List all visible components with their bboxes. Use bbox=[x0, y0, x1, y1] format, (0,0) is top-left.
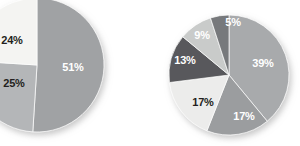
pie-slice-label: 25% bbox=[3, 77, 25, 89]
pie-charts-svg: 51%25%24%39%17%17%13%9%5% bbox=[0, 0, 300, 146]
pie-slice-label: 5% bbox=[225, 16, 241, 28]
pie-charts-figure: 51%25%24%39%17%17%13%9%5% bbox=[0, 0, 300, 146]
chart-canvas: 51%25%24%39%17%17%13%9%5% bbox=[0, 0, 300, 146]
pie-slice-label: 13% bbox=[174, 54, 196, 66]
pie-slice[interactable] bbox=[0, 0, 37, 65]
pie-slice-label: 24% bbox=[1, 34, 23, 46]
left-pie bbox=[0, 0, 104, 132]
pie-slice[interactable] bbox=[0, 61, 37, 132]
pie-slice-label: 51% bbox=[62, 61, 84, 73]
pie-slice-label: 9% bbox=[194, 29, 210, 41]
right-pie bbox=[169, 15, 289, 135]
pie-slice-label: 17% bbox=[233, 110, 255, 122]
pie-slice-label: 39% bbox=[252, 57, 274, 69]
pie-slice-label: 17% bbox=[192, 96, 214, 108]
